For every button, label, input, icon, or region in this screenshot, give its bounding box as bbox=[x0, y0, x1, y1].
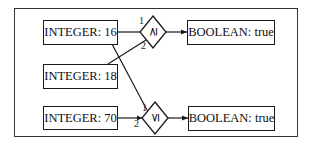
port-label: 1 bbox=[139, 15, 144, 26]
node-boolean-le-result[interactable]: BOOLEAN: true bbox=[188, 106, 275, 131]
node-integer-16[interactable]: INTEGER: 16 bbox=[43, 20, 118, 45]
port-label: 2 bbox=[141, 40, 146, 51]
operator-le-symbol: ≤ bbox=[148, 113, 162, 123]
node-integer-18[interactable]: INTEGER: 18 bbox=[43, 64, 118, 89]
node-boolean-ge-result[interactable]: BOOLEAN: true bbox=[187, 20, 275, 45]
port-label: 1 bbox=[142, 102, 147, 113]
port-label: 2 bbox=[134, 118, 139, 129]
operator-ge-symbol: ≥ bbox=[146, 27, 160, 37]
node-integer-70[interactable]: INTEGER: 70 bbox=[43, 106, 118, 130]
